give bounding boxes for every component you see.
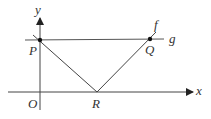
y-axis-label: y <box>35 3 41 16</box>
point-q-label: Q <box>145 43 154 56</box>
line-g <box>25 39 164 40</box>
line-g-label: g <box>169 32 176 45</box>
point-p <box>38 38 42 42</box>
geometry-diagram: y P O R Q f g x <box>0 0 211 119</box>
x-axis-label: x <box>196 84 202 97</box>
segment-pr <box>33 35 97 92</box>
point-q <box>148 37 152 41</box>
origin-label: O <box>28 97 37 110</box>
line-f <box>97 32 156 92</box>
point-r-label: R <box>92 97 100 110</box>
line-f-label: f <box>154 18 158 31</box>
point-p-label: P <box>29 44 37 57</box>
